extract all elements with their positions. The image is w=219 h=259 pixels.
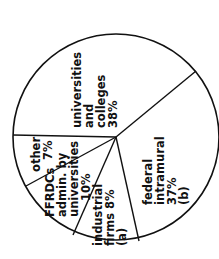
svg-text:(a): (a): [115, 228, 129, 246]
svg-text:(b): (b): [177, 186, 191, 205]
svg-text:7%: 7%: [41, 140, 55, 160]
pie-chart: universities and colleges 38% federal in…: [0, 0, 219, 259]
svg-text:38%: 38%: [106, 100, 120, 128]
svg-text:10%: 10%: [79, 173, 93, 201]
